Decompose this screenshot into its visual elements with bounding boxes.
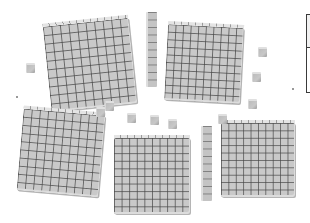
flat-bottom-middle [114, 138, 190, 214]
frame-divider [307, 47, 310, 48]
speck-dot [292, 88, 294, 90]
unit-4 [150, 115, 159, 125]
unit-1 [26, 63, 35, 73]
side-frame [306, 14, 310, 93]
speck-dot [16, 96, 18, 98]
flat-top-right [164, 24, 244, 104]
unit-7 [252, 72, 261, 82]
unit-2 [105, 101, 114, 111]
unit-6 [258, 47, 267, 57]
unit-10 [218, 114, 227, 124]
base-ten-blocks-scene [0, 0, 310, 223]
unit-5 [168, 119, 177, 129]
unit-9 [96, 107, 105, 117]
flat-bottom-left [17, 109, 106, 198]
rod-top [146, 12, 157, 87]
unit-3 [127, 113, 136, 123]
unit-8 [248, 99, 257, 109]
flat-top-left [43, 18, 138, 113]
frame-header-shade [307, 15, 310, 47]
rod-bottom [201, 126, 212, 201]
flat-bottom-right [221, 123, 295, 197]
